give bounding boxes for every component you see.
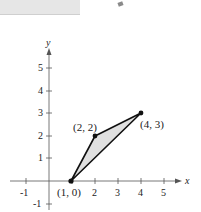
y-tick-label: 2 [38, 130, 43, 141]
coordinate-plot: -1 2 3 4 5 -1 1 2 3 4 5 x y (1, 0) (2, 2… [0, 0, 201, 212]
y-tick-label: 1 [38, 152, 43, 163]
figure: -1 2 3 4 5 -1 1 2 3 4 5 x y (1, 0) (2, 2… [0, 0, 201, 212]
y-tick-label: 5 [38, 62, 43, 73]
y-axis-label: y [45, 37, 51, 48]
y-axis-arrow-icon [47, 48, 52, 55]
x-axis-label: x [184, 175, 190, 186]
point-label-4-3: (4, 3) [140, 118, 164, 131]
x-axis-arrow-icon [175, 179, 182, 184]
x-tick-label: 3 [115, 187, 120, 198]
x-tick-label: 2 [92, 187, 97, 198]
point-4-3 [139, 111, 144, 116]
x-tick-label: 5 [161, 187, 166, 198]
y-tick-label: -1 [33, 198, 41, 209]
point-label-2-2: (2, 2) [73, 121, 97, 134]
y-tick-label: 3 [38, 107, 43, 118]
x-tick-label: -1 [20, 187, 28, 198]
point-2-2 [93, 134, 98, 139]
y-tick-label: 4 [38, 85, 43, 96]
point-label-1-0: (1, 0) [57, 186, 81, 199]
x-tick-label: 4 [138, 187, 143, 198]
point-1-0 [68, 178, 73, 183]
